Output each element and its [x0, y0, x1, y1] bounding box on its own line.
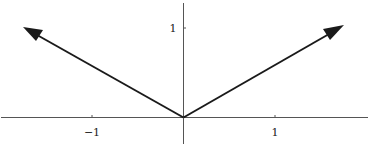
- arrowhead-left-icon: [23, 27, 43, 41]
- x-tick-label-neg1: −1: [84, 126, 100, 139]
- arrowhead-right-icon: [323, 25, 344, 40]
- vector-left-arrow: [30, 31, 184, 118]
- vector-right-arrow: [184, 30, 337, 118]
- x-tick-label-1: 1: [272, 126, 279, 139]
- vector-plot: −1 1 1: [0, 0, 376, 149]
- y-tick-label-1: 1: [170, 22, 177, 35]
